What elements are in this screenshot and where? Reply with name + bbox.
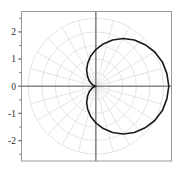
plot-canvas: 210-1-2 [0,0,181,171]
polar-plot-figure: 210-1-2 [0,0,181,171]
y-tick-label: -1 [8,109,16,119]
y-tick-label: -2 [8,136,16,146]
y-axis-tick-labels: 210-1-2 [8,27,16,146]
y-tick-label: 0 [11,82,16,92]
y-tick-label: 1 [11,54,16,64]
y-tick-label: 2 [11,27,16,37]
